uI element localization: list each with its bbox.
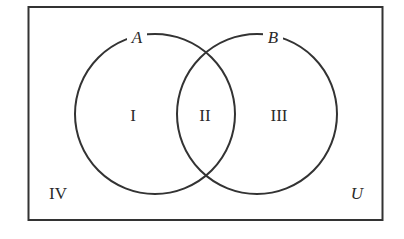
- region-iv-label: IV: [49, 184, 68, 203]
- set-b-label: B: [268, 28, 279, 47]
- region-i-label: I: [130, 106, 136, 125]
- set-a-label: A: [131, 28, 143, 47]
- region-ii-label: II: [199, 106, 211, 125]
- venn-diagram: A B I II III IV U: [0, 0, 404, 239]
- region-iii-label: III: [271, 106, 288, 125]
- universe-label: U: [351, 184, 365, 203]
- set-a-circle: [75, 34, 235, 194]
